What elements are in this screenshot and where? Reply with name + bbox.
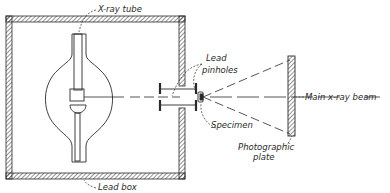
photographic-plate [288,56,295,136]
lead-box [6,16,185,179]
xray-tube [45,34,112,162]
label-lead-pinholes-line1: Lead [206,53,227,63]
label-photographic-line1: Photographic [238,142,294,152]
label-photographic-line2: plate [252,152,275,162]
xray-diffraction-diagram: X-ray tube Lead pinholes Main x-ray beam… [0,0,390,193]
label-lead-box: Lead box [98,182,138,192]
label-lead-pinholes-line2: pinholes [201,65,238,75]
label-main-beam: Main x-ray beam [305,92,377,102]
label-specimen: Specimen [211,120,253,130]
specimen [198,92,203,102]
label-xray-tube: X-ray tube [97,4,142,14]
